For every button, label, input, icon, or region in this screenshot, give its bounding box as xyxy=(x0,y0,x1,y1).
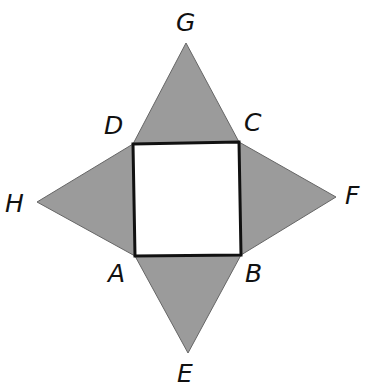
label-e: E xyxy=(177,361,193,386)
label-c: C xyxy=(244,110,261,135)
label-h: H xyxy=(5,191,24,216)
square-abcd xyxy=(133,142,241,256)
label-a: A xyxy=(108,261,125,286)
figure-svg xyxy=(0,0,365,386)
triangle-abe xyxy=(135,255,241,353)
label-d: D xyxy=(104,113,123,138)
triangle-dah xyxy=(37,144,135,256)
triangle-cbf xyxy=(239,142,336,255)
geometry-figure: G D C H F A B E xyxy=(0,0,365,386)
label-f: F xyxy=(345,183,359,208)
label-g: G xyxy=(176,10,195,35)
triangle-dcg xyxy=(133,43,239,144)
label-b: B xyxy=(245,261,262,286)
